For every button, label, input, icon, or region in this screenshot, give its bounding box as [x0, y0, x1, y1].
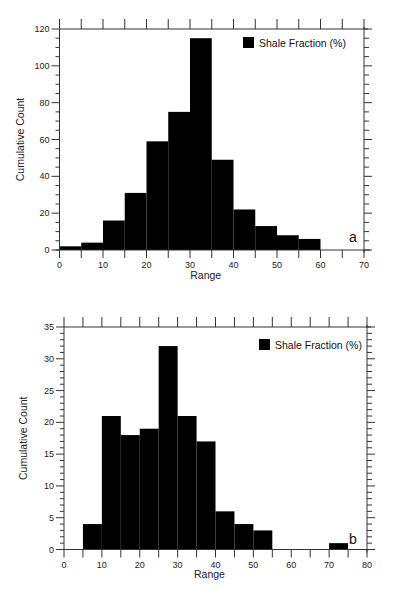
histogram-bar — [83, 524, 102, 549]
histogram-bar — [168, 112, 190, 250]
histogram-bar — [197, 441, 216, 549]
x-tick-label: 50 — [248, 560, 258, 570]
histogram-bar — [212, 160, 234, 250]
histogram-bar — [190, 38, 212, 250]
x-tick-label: 20 — [141, 260, 151, 270]
histogram-bars — [60, 38, 321, 250]
y-tick-label: 20 — [44, 417, 54, 427]
histogram-bars — [83, 346, 348, 549]
y-tick-label: 80 — [39, 98, 49, 108]
y-tick-label: 5 — [49, 513, 54, 523]
histogram-bar — [255, 226, 277, 250]
y-tick-label: 35 — [44, 322, 54, 332]
legend-label: Shale Fraction (%) — [259, 37, 346, 49]
y-tick-labels: 05101520253035 — [44, 322, 54, 555]
histogram-bar — [253, 530, 272, 549]
legend-swatch — [243, 37, 254, 48]
x-tick-label: 0 — [61, 560, 66, 570]
panel-label: a — [349, 229, 357, 245]
y-tick-label: 120 — [34, 24, 49, 34]
histogram-bar — [81, 243, 103, 250]
histogram-bar — [234, 524, 253, 549]
y-tick-label: 60 — [39, 135, 49, 145]
x-tick-label: 10 — [98, 260, 108, 270]
histogram-bar — [103, 221, 125, 250]
panel-label: b — [349, 531, 357, 547]
x-axis-label: Range — [190, 269, 221, 281]
y-axis-label: Cumulative Count — [14, 98, 26, 182]
histogram-bar — [216, 511, 235, 549]
histogram-bar — [125, 193, 147, 250]
x-tick-label: 80 — [362, 560, 372, 570]
y-tick-label: 100 — [34, 61, 49, 71]
y-axis-label: Cumulative Count — [17, 396, 29, 480]
y-tick-label: 0 — [49, 545, 54, 555]
x-tick-label: 0 — [57, 260, 62, 270]
x-tick-label: 30 — [173, 560, 183, 570]
y-tick-labels: 020406080100120 — [34, 24, 49, 255]
x-tick-label: 40 — [228, 260, 238, 270]
y-tick-label: 0 — [44, 245, 49, 255]
x-tick-label: 20 — [135, 560, 145, 570]
x-tick-label: 70 — [324, 560, 334, 570]
legend-swatch — [259, 339, 270, 350]
histogram-bar — [140, 429, 159, 550]
legend-label: Shale Fraction (%) — [275, 339, 362, 351]
histogram-bar — [147, 141, 169, 250]
x-axis-label: Range — [194, 568, 225, 580]
x-tick-label: 70 — [359, 260, 369, 270]
y-tick-label: 15 — [44, 449, 54, 459]
x-tick-label: 10 — [97, 560, 107, 570]
histogram-bar — [159, 346, 178, 549]
histogram-figure: 020406080100120010203040506070RangeCumul… — [0, 0, 394, 597]
x-tick-label: 60 — [315, 260, 325, 270]
histogram-bar — [329, 543, 348, 549]
legend: Shale Fraction (%) — [243, 37, 346, 49]
x-tick-label: 50 — [272, 260, 282, 270]
y-tick-label: 30 — [44, 354, 54, 364]
x-tick-label: 60 — [286, 560, 296, 570]
legend: Shale Fraction (%) — [259, 339, 362, 351]
y-tick-label: 40 — [39, 171, 49, 181]
histogram-bar — [178, 416, 197, 550]
histogram-panel-b: 0510152025303501020304050607080RangeCumu… — [17, 317, 375, 580]
y-tick-label: 20 — [39, 208, 49, 218]
histogram-bar — [299, 239, 321, 250]
histogram-bar — [60, 246, 82, 250]
y-tick-label: 10 — [44, 481, 54, 491]
histogram-bar — [234, 209, 256, 250]
histogram-panel-a: 020406080100120010203040506070RangeCumul… — [14, 19, 372, 281]
y-tick-label: 25 — [44, 386, 54, 396]
histogram-bar — [102, 416, 121, 550]
histogram-bar — [277, 235, 299, 250]
histogram-bar — [121, 435, 140, 549]
